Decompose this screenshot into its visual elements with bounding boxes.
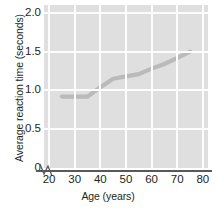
y-axis-tick-label: 1.5 xyxy=(25,46,41,58)
gridline-vertical xyxy=(74,5,76,168)
y-axis-tick-label: 1.0 xyxy=(25,84,41,96)
x-axis-title: Age (years) xyxy=(0,190,216,202)
x-axis-line xyxy=(36,170,212,172)
gridline-vertical xyxy=(151,5,153,168)
plot-area xyxy=(44,5,208,168)
gridline-vertical xyxy=(176,5,178,168)
reaction-time-line-chart: Average reaction time (seconds) 00.51.01… xyxy=(0,0,216,211)
y-axis-tick-label: 0.5 xyxy=(25,123,41,135)
gridline-vertical xyxy=(48,5,50,168)
gridline-vertical xyxy=(99,5,101,168)
gridline-vertical xyxy=(202,5,204,168)
y-axis-tick-labels: 00.51.01.52.0 xyxy=(16,0,41,175)
x-axis-tick-label: 40 xyxy=(94,174,107,186)
gridline-vertical xyxy=(125,5,127,168)
x-axis-tick-label: 70 xyxy=(171,174,184,186)
y-axis-tick-label: 2.0 xyxy=(25,7,41,19)
x-axis-tick-labels: 20304050607080 xyxy=(0,174,216,190)
x-axis-tick-label: 50 xyxy=(120,174,133,186)
x-axis-tick-label: 20 xyxy=(43,174,56,186)
x-axis-tick-label: 80 xyxy=(196,174,209,186)
x-axis-tick-label: 60 xyxy=(145,174,158,186)
x-axis-tick-label: 30 xyxy=(68,174,81,186)
